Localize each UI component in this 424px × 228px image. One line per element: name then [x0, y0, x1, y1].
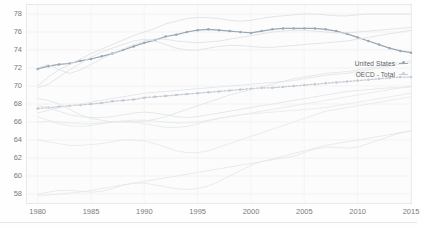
series-marker [196, 29, 199, 32]
series-marker [260, 30, 263, 32]
series-marker [122, 99, 125, 102]
legend-label-oecd-total: OECD - Total [356, 71, 395, 78]
series-marker [100, 102, 103, 105]
bottom-divider [0, 222, 417, 223]
y-axis-tick-label: 72 [0, 64, 22, 72]
legend-swatch-united-states [399, 61, 408, 67]
series-marker [218, 29, 221, 32]
x-axis-tick-label: 2005 [284, 208, 324, 216]
series-marker [250, 32, 253, 35]
y-axis-tick-label: 78 [0, 10, 22, 18]
series-marker [36, 107, 39, 110]
series-marker [58, 63, 61, 66]
x-axis-tick-label: 1980 [18, 208, 58, 216]
series-marker [303, 84, 306, 87]
series-marker [292, 27, 295, 30]
series-marker [90, 103, 93, 106]
x-axis-tick-label: 2000 [231, 208, 271, 216]
series-marker [79, 60, 82, 63]
series-marker [143, 42, 146, 45]
series-marker [335, 30, 338, 32]
series-layer [36, 14, 412, 196]
legend-item-united-states[interactable]: United States [330, 60, 408, 67]
legend-swatch-oecd-total [399, 72, 408, 78]
series-marker [346, 80, 349, 83]
series-marker [303, 27, 306, 30]
series-line [38, 30, 411, 88]
legend-label-united-states: United States [355, 60, 395, 67]
series-marker [367, 78, 370, 81]
series-marker [47, 65, 50, 68]
x-axis-tick-label: 1985 [71, 208, 111, 216]
series-marker [132, 45, 135, 48]
y-axis-tick-label: 74 [0, 46, 22, 54]
series-marker [378, 43, 381, 46]
series-marker [111, 100, 114, 103]
series-line [38, 131, 411, 196]
x-axis-tick-label: 1995 [178, 208, 218, 216]
series-marker [164, 95, 167, 98]
series-marker [218, 90, 221, 93]
series-line [38, 97, 411, 153]
series-marker [143, 96, 146, 99]
series-marker [410, 51, 413, 54]
y-axis-tick-label: 60 [0, 172, 22, 180]
series-marker [271, 28, 274, 31]
series-marker [132, 98, 135, 101]
series-marker [100, 55, 103, 58]
x-axis-tick-label: 1990 [124, 208, 164, 216]
y-axis-tick-label: 64 [0, 136, 22, 144]
series-marker [282, 86, 285, 89]
y-axis-tick-label: 68 [0, 100, 22, 108]
y-axis-tick-label: 62 [0, 154, 22, 162]
series-line [38, 86, 411, 124]
series-marker [207, 28, 210, 31]
series-marker [367, 40, 370, 43]
series-marker [324, 28, 327, 31]
series-marker [356, 36, 359, 39]
series-marker [186, 31, 189, 34]
series-marker [335, 81, 338, 84]
series-marker [314, 83, 317, 86]
series-marker [186, 93, 189, 96]
series-marker [228, 89, 231, 92]
series-marker [282, 27, 285, 30]
series-marker [239, 31, 242, 34]
series-marker [388, 47, 391, 50]
series-marker [207, 91, 210, 94]
series-marker [356, 79, 359, 82]
y-axis-tick-label: 76 [0, 28, 22, 36]
series-marker [175, 33, 178, 36]
series-marker [175, 94, 178, 97]
series-marker [239, 88, 242, 91]
series-marker [399, 50, 402, 53]
x-axis-tick-label: 2015 [391, 208, 424, 216]
series-marker [410, 76, 413, 79]
series-marker [154, 96, 157, 99]
series-marker [228, 30, 231, 32]
y-axis-tick-label: 66 [0, 118, 22, 126]
series-marker [314, 27, 317, 30]
legend-item-oecd-total[interactable]: OECD - Total [330, 71, 408, 78]
y-axis-tick-label: 58 [0, 190, 22, 198]
series-marker [271, 87, 274, 90]
y-axis-tick-label: 70 [0, 82, 22, 90]
x-axis-tick-label: 2010 [338, 208, 378, 216]
series-marker [164, 35, 167, 38]
series-marker [196, 92, 199, 95]
series-marker [292, 85, 295, 88]
series-marker [324, 82, 327, 85]
